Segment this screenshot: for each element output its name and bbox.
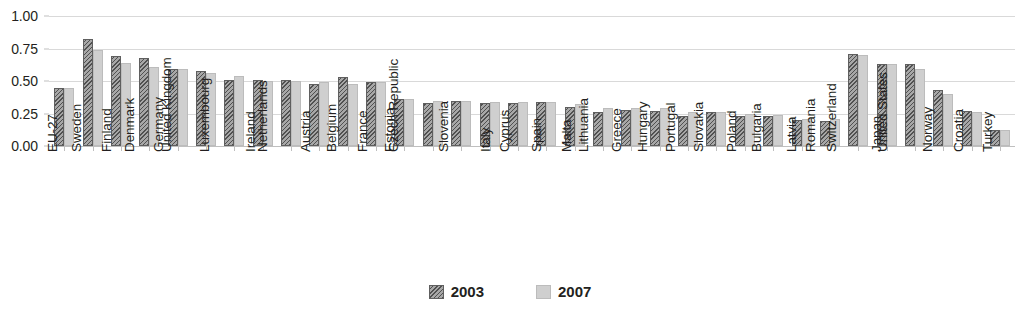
x-axis-label-slot: Luxembourg bbox=[220, 146, 248, 264]
bar-2003 bbox=[848, 54, 858, 146]
bar-2007 bbox=[518, 102, 528, 146]
x-axis-label-slot: Finland bbox=[107, 146, 135, 264]
x-axis-label-slot: Bulgaria bbox=[759, 146, 787, 264]
bar-2003 bbox=[224, 80, 234, 146]
x-axis-tick-label: Greece bbox=[610, 108, 625, 152]
x-axis-label-slot: Italy bbox=[475, 146, 503, 264]
y-axis-tick-label: 0.50 bbox=[11, 73, 38, 89]
x-axis-tick-mark bbox=[915, 146, 916, 151]
x-axis-tick-label: Luxembourg bbox=[197, 78, 212, 152]
x-axis-label-slot: Greece bbox=[617, 146, 645, 264]
x-axis-tick-mark bbox=[716, 146, 717, 151]
x-axis-label-slot: United States bbox=[901, 146, 929, 264]
x-axis-tick-mark bbox=[688, 146, 689, 151]
x-axis-tick-label: Sweden bbox=[68, 104, 83, 152]
legend-item[interactable]: 2003 bbox=[429, 283, 484, 300]
bar-2003 bbox=[650, 111, 660, 146]
x-axis-label-slot: France bbox=[362, 146, 390, 264]
bar-group bbox=[447, 16, 475, 146]
x-axis-label-slot: Slovenia bbox=[447, 146, 475, 264]
x-axis-tick-label: Croatia bbox=[950, 109, 965, 152]
legend-label: 2007 bbox=[558, 283, 591, 300]
x-axis-tick-mark bbox=[348, 146, 349, 151]
x-axis-tick-mark bbox=[660, 146, 661, 151]
light-gray-swatch bbox=[536, 285, 551, 299]
x-axis-label-slot: Germany bbox=[163, 146, 191, 264]
y-axis-tick-label: 1.00 bbox=[11, 8, 38, 24]
x-axis-label-slot: United Kingdom bbox=[192, 146, 220, 264]
x-axis-tick-label: Slovakia bbox=[691, 102, 706, 152]
x-axis-tick-label: United Kingdom bbox=[159, 57, 174, 152]
x-axis-label-slot: Slovakia bbox=[702, 146, 730, 264]
y-axis-tick-label: 0.00 bbox=[11, 138, 38, 154]
x-axis-tick-label: Norway bbox=[921, 107, 936, 152]
x-axis-tick-mark bbox=[972, 146, 973, 151]
x-axis-tick-label: Bulgaria bbox=[749, 103, 764, 152]
y-axis-tick-label: 0.25 bbox=[11, 106, 38, 122]
x-axis-tick-label: EU-27 bbox=[45, 114, 60, 152]
legend-label: 2003 bbox=[451, 283, 484, 300]
bar-2003 bbox=[338, 77, 348, 146]
bar-2003 bbox=[678, 116, 688, 146]
x-axis-tick-mark bbox=[1000, 146, 1001, 151]
bar-2007 bbox=[858, 55, 868, 146]
x-axis-tick-label: Denmark bbox=[122, 98, 137, 152]
x-axis-tick-mark bbox=[773, 146, 774, 151]
legend-item[interactable]: 2007 bbox=[536, 283, 591, 300]
x-axis-label-slot: Poland bbox=[731, 146, 759, 264]
x-axis-tick-label: Hungary bbox=[635, 102, 650, 152]
bar-2003 bbox=[139, 58, 149, 146]
x-axis-tick-mark bbox=[376, 146, 377, 151]
x-axis-label-slot: Latvia bbox=[787, 146, 815, 264]
x-axis-label-slot: Ireland bbox=[249, 146, 277, 264]
x-axis-tick-mark bbox=[404, 146, 405, 151]
x-axis-tick-label: Poland bbox=[724, 111, 739, 152]
bar-2007 bbox=[461, 101, 471, 147]
x-axis-tick-label: Malta bbox=[558, 119, 573, 152]
x-axis-tick-label: Cyprus bbox=[497, 110, 512, 152]
x-axis-label-slot: Hungary bbox=[646, 146, 674, 264]
bar-2003 bbox=[593, 112, 603, 146]
x-axis-tick-label: Slovenia bbox=[436, 101, 451, 152]
x-axis-label-slot: Malta bbox=[560, 146, 588, 264]
x-axis-tick-mark bbox=[518, 146, 519, 151]
bar-2003 bbox=[281, 80, 291, 146]
bar-2003 bbox=[706, 112, 716, 146]
y-axis-tick-label: 0.75 bbox=[11, 41, 38, 57]
bar-2003 bbox=[423, 103, 433, 146]
x-axis-tick-mark bbox=[603, 146, 604, 151]
x-axis-label-slot: Spain bbox=[532, 146, 560, 264]
x-axis-label-slot: Sweden bbox=[78, 146, 106, 264]
x-axis-tick-mark bbox=[858, 146, 859, 151]
x-axis-label-slot: Turkey bbox=[986, 146, 1014, 264]
x-axis-tick-label: Austria bbox=[299, 111, 314, 152]
x-axis-tick-label: Finland bbox=[99, 108, 114, 152]
x-axis-tick-mark bbox=[433, 146, 434, 151]
x-axis-tick-label: Spain bbox=[529, 118, 544, 152]
hatched-dark-swatch bbox=[429, 285, 444, 299]
x-axis-label-slot: Norway bbox=[929, 146, 957, 264]
x-axis-tick-mark bbox=[943, 146, 944, 151]
x-axis-tick-label: United States bbox=[875, 72, 890, 152]
x-axis-tick-mark bbox=[291, 146, 292, 151]
bar-2003 bbox=[905, 64, 915, 146]
x-axis-label-slot: Czech Republic bbox=[419, 146, 447, 264]
x-axis-tick-mark bbox=[546, 146, 547, 151]
x-axis-label-slot: Estonia bbox=[390, 146, 418, 264]
x-axis-label-slot: Japan bbox=[872, 146, 900, 264]
bar-2007 bbox=[404, 99, 414, 146]
bar-2007 bbox=[773, 115, 783, 146]
bar-2007 bbox=[178, 69, 188, 146]
x-axis-tick-label: Lithuania bbox=[576, 98, 591, 152]
bar-2003 bbox=[83, 39, 93, 146]
y-axis: 0.000.250.500.751.00 bbox=[0, 0, 44, 146]
x-axis-tick-mark bbox=[631, 146, 632, 151]
bar-2007 bbox=[1000, 130, 1010, 146]
chart-legend: 20032007 bbox=[0, 283, 1020, 300]
x-axis-label-slot: Switzerland bbox=[844, 146, 872, 264]
x-axis-label-slot: Cyprus bbox=[504, 146, 532, 264]
x-axis-label-slot: EU-27 bbox=[50, 146, 78, 264]
x-axis-labels: EU-27SwedenFinlandDenmarkGermanyUnited K… bbox=[49, 146, 1015, 264]
x-axis-tick-mark bbox=[93, 146, 94, 151]
x-axis-tick-mark bbox=[64, 146, 65, 151]
